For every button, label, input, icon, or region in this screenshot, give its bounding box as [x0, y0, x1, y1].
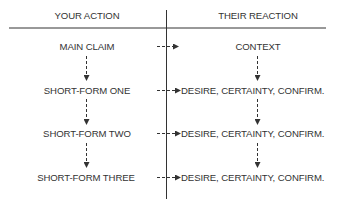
reaction-context: CONTEXT — [235, 42, 280, 52]
reaction-short-form-two: DESIRE, CERTAINTY, CONFIRM. — [181, 129, 324, 139]
action-short-form-one: SHORT-FORM ONE — [44, 86, 130, 96]
column-header-your-action: YOUR ACTION — [55, 11, 120, 21]
reaction-short-form-one: DESIRE, CERTAINTY, CONFIRM. — [181, 86, 324, 96]
action-short-form-two: SHORT-FORM TWO — [43, 129, 131, 139]
horizontal-arrows — [157, 47, 180, 178]
action-short-form-three: SHORT-FORM THREE — [37, 173, 135, 183]
diagram-lines — [0, 0, 346, 219]
column-header-their-reaction: THEIR REACTION — [218, 11, 298, 21]
reaction-short-form-three: DESIRE, CERTAINTY, CONFIRM. — [181, 173, 324, 183]
action-main-claim: MAIN CLAIM — [60, 42, 115, 52]
